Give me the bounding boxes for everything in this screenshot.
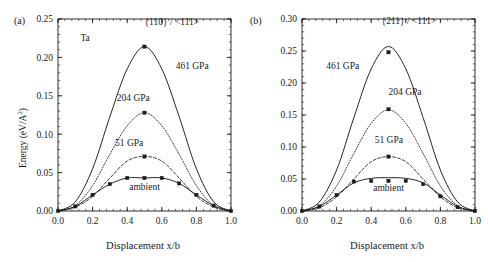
y-tick-label: 0.10 <box>280 142 297 152</box>
annotation-204-gpa: 204 GPa <box>117 93 151 103</box>
data-point-ambient <box>352 180 355 183</box>
data-point-ambient <box>456 205 459 208</box>
y-tick-label: 0.20 <box>36 53 53 63</box>
y-tick-label: 0.15 <box>36 91 53 101</box>
x-tick-label: 0.6 <box>156 216 168 226</box>
data-point-ambient <box>404 179 407 182</box>
data-point-ambient <box>229 209 232 212</box>
annotation-ta: Ta <box>80 33 90 43</box>
data-point-461-gpa <box>387 51 390 54</box>
y-tick-label: 0.30 <box>280 14 297 24</box>
y-tick-label: 0.05 <box>280 174 297 184</box>
annotation-211-111: {211} / <111> <box>382 16 437 26</box>
panel-b: (b) Displacement x/b 0.00.20.40.60.81.00… <box>244 0 488 262</box>
x-tick-label: 0.0 <box>296 216 308 226</box>
x-tick-label: 0.2 <box>331 216 343 226</box>
x-tick-label: 0.8 <box>434 216 446 226</box>
data-point-ambient <box>126 176 129 179</box>
data-point-ambient <box>195 193 198 196</box>
data-point-ambient <box>74 205 77 208</box>
x-tick-label: 0.4 <box>121 216 133 226</box>
data-point-ambient <box>439 195 442 198</box>
figure-root: (a) Energy (eV/A2) Displacement x/b 0.00… <box>0 0 488 262</box>
x-tick-label: 0.0 <box>52 216 64 226</box>
data-point-ambient <box>300 209 303 212</box>
data-point-ambient <box>335 193 338 196</box>
data-point-204-gpa <box>143 111 146 114</box>
data-point-ambient <box>160 176 163 179</box>
x-tick-label: 1.0 <box>225 216 237 226</box>
x-tick-label: 0.6 <box>400 216 412 226</box>
data-point-51-gpa <box>387 155 390 158</box>
panel-a: (a) Energy (eV/A2) Displacement x/b 0.00… <box>0 0 244 262</box>
data-point-51-gpa <box>143 155 146 158</box>
data-point-ambient <box>91 193 94 196</box>
x-tick-label: 0.8 <box>190 216 202 226</box>
y-tick-label: 0.00 <box>280 206 297 216</box>
annotation-51-gpa: 51 GPa <box>375 135 404 145</box>
curve-204-gpa <box>58 113 231 211</box>
annotation-ambient: ambient <box>373 183 404 193</box>
data-point-ambient <box>473 209 476 212</box>
y-tick-label: 0.10 <box>36 130 53 140</box>
panel-b-plot: 0.00.20.40.60.81.00.000.050.100.150.200.… <box>244 0 488 262</box>
y-tick-label: 0.25 <box>280 46 297 56</box>
data-point-ambient <box>421 182 424 185</box>
y-tick-label: 0.00 <box>36 206 53 216</box>
annotation-51-gpa: 51 GPa <box>115 138 144 148</box>
y-tick-label: 0.25 <box>36 14 53 24</box>
y-tick-label: 0.05 <box>36 168 53 178</box>
data-point-ambient <box>108 182 111 185</box>
annotation-204-gpa: 204 GPa <box>389 87 423 97</box>
panel-a-plot: 0.00.20.40.60.81.00.000.050.100.150.200.… <box>0 0 244 262</box>
y-tick-label: 0.15 <box>280 110 297 120</box>
data-point-ambient <box>56 209 59 212</box>
data-point-204-gpa <box>387 108 390 111</box>
curve-204-gpa <box>302 110 475 211</box>
data-point-ambient <box>212 204 215 207</box>
x-tick-label: 1.0 <box>469 216 481 226</box>
y-tick-label: 0.20 <box>280 78 297 88</box>
annotation-461-gpa: 461 GPa <box>176 61 210 71</box>
annotation-ambient: ambient <box>129 182 160 192</box>
annotation-110-111: {110} / <111> <box>145 17 200 27</box>
data-point-461-gpa <box>143 45 146 48</box>
data-point-ambient <box>318 205 321 208</box>
data-point-ambient <box>177 182 180 185</box>
annotation-461-gpa: 461 GPa <box>326 61 360 71</box>
data-point-ambient <box>143 176 146 179</box>
x-tick-label: 0.2 <box>87 216 99 226</box>
x-tick-label: 0.4 <box>365 216 377 226</box>
